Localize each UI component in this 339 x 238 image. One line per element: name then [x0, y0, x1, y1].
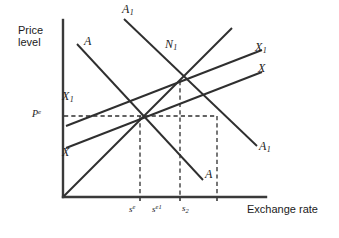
- curve-label-x-right: X: [258, 62, 265, 75]
- point-label-n1: N1: [165, 38, 177, 53]
- x-axis-title: Exchange rate: [247, 203, 318, 215]
- curve-label-a1-top: A1: [122, 3, 134, 18]
- x-tick-label-s2: s2: [182, 203, 189, 214]
- exchange-rate-price-level-diagram: Price level Exchange rate Pe A A1 N1 X1 …: [0, 0, 339, 238]
- curve-label-x1-right-sub: 1: [262, 46, 266, 55]
- x-tick-label-se1-sup: e1: [156, 203, 162, 210]
- point-label-n1-base: N: [165, 37, 173, 51]
- y-axis-title-line1: Price: [18, 24, 64, 36]
- curve-label-x1-left: X1: [62, 90, 74, 105]
- curve-label-x1-left-sub: 1: [69, 95, 73, 104]
- curve-a: [77, 44, 203, 180]
- x-tick-label-se-sup: e: [133, 203, 136, 210]
- curve-label-a-lower-right: A: [205, 168, 212, 181]
- y-axis-title-line2: level: [18, 36, 64, 48]
- curve-x1: [66, 50, 262, 126]
- curve-label-a1-right-sub: 1: [266, 145, 270, 154]
- y-axis-value-superscript: e: [38, 108, 41, 116]
- y-axis-title: Price level: [18, 24, 64, 49]
- x-tick-label-s2-sub: 2: [186, 207, 189, 214]
- curve-label-a-top: A: [84, 35, 91, 48]
- curve-label-a1-top-sub: 1: [129, 8, 133, 17]
- x-tick-label-se: se: [129, 203, 135, 214]
- curve-label-x-left: X: [62, 146, 69, 159]
- y-axis-value-pe: Pe: [32, 108, 41, 119]
- point-label-n1-sub: 1: [173, 43, 177, 52]
- curve-label-a1-right: A1: [259, 140, 271, 155]
- curve-label-x1-right: X1: [255, 41, 267, 56]
- curves-group: [64, 19, 262, 196]
- x-tick-label-se1: se1: [152, 203, 162, 214]
